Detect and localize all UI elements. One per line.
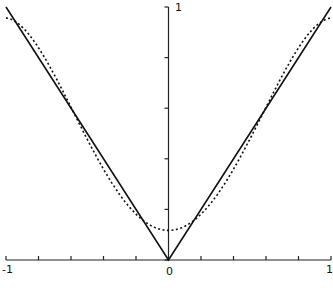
chart-plot-area: [0, 0, 333, 291]
x-tick-label-max: 1: [326, 264, 333, 275]
x-tick-label-zero: 0: [166, 266, 173, 277]
x-tick-label-min: -1: [2, 264, 13, 275]
y-tick-label-max: 1: [175, 2, 182, 13]
axes: [6, 7, 331, 260]
